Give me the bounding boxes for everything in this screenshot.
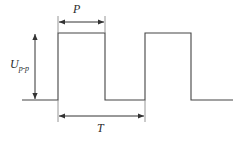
- square-waveform-trace: [22, 33, 233, 100]
- amplitude-label: Up-p: [10, 58, 29, 73]
- pulse-waveform-figure: P T Up-p: [0, 0, 243, 147]
- period-guide-ticks: [58, 100, 145, 122]
- waveform-svg: [0, 0, 243, 147]
- pulse-width-guide-ticks: [58, 16, 105, 33]
- period-label: T: [97, 122, 104, 134]
- pulse-width-label: P: [73, 3, 80, 15]
- amplitude-subscript: p-p: [19, 64, 29, 73]
- amplitude-symbol: U: [10, 57, 19, 71]
